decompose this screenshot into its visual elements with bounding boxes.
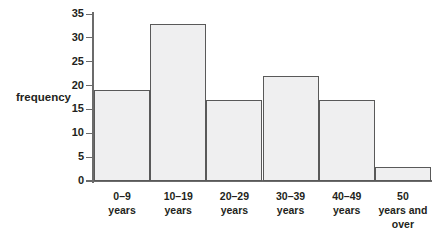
y-axis-tick-label-text: 25: [58, 56, 84, 67]
y-axis-tick-label-text: 5: [58, 151, 84, 162]
y-axis-tick-label: 0: [58, 175, 84, 186]
plot-area: [94, 14, 431, 181]
y-axis-tick-label: 5: [58, 151, 84, 162]
y-axis-tick: [86, 109, 92, 110]
x-axis-category-label: 50years andover: [367, 189, 439, 231]
y-axis-tick: [86, 37, 92, 38]
y-axis-tick-label-text: 20: [58, 80, 84, 91]
y-axis-tick: [86, 85, 92, 86]
histogram-bar: [150, 24, 206, 181]
histogram-bar: [206, 100, 262, 181]
histogram-bar: [375, 167, 431, 181]
y-axis-tick: [86, 61, 92, 62]
y-axis-tick-label: 15: [58, 103, 84, 114]
histogram-figure: frequency 05101520253035 0–9years10–19ye…: [0, 0, 445, 237]
y-axis-title: frequency: [16, 91, 71, 103]
y-axis-tick: [86, 133, 92, 134]
y-axis-tick-label: 20: [58, 80, 84, 91]
histogram-bar: [319, 100, 375, 181]
x-axis-category-label-line: 50: [367, 189, 439, 203]
histogram-bar: [263, 76, 319, 181]
x-axis-category-label-line: years and: [367, 203, 439, 217]
y-axis-tick: [86, 181, 92, 182]
y-axis-tick-label-text: 35: [58, 8, 84, 19]
y-axis-tick-label-text: 30: [58, 32, 84, 43]
y-axis-tick-label: 35: [58, 8, 84, 19]
y-axis-tick-label-text: 0: [58, 175, 84, 186]
y-axis-tick-label: 30: [58, 32, 84, 43]
y-axis-tick-label-text: 10: [58, 127, 84, 138]
y-axis-tick: [86, 14, 92, 15]
y-axis-tick-label: 10: [58, 127, 84, 138]
histogram-bar: [94, 90, 150, 181]
y-axis-tick-label: 25: [58, 56, 84, 67]
y-axis-tick: [86, 157, 92, 158]
y-axis-tick-label-text: 15: [58, 103, 84, 114]
x-axis-category-label-line: over: [367, 217, 439, 231]
